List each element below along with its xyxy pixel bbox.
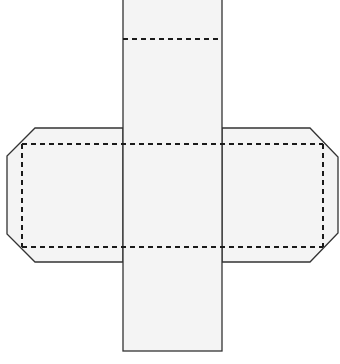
center-column xyxy=(123,0,222,351)
box-net-diagram xyxy=(0,0,340,364)
right-flap xyxy=(222,128,338,262)
left-flap xyxy=(7,128,123,262)
